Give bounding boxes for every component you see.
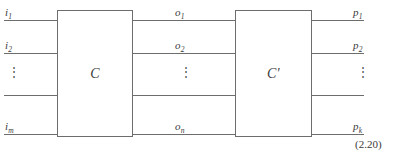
- output-label-p2: p2: [353, 40, 362, 51]
- middle-label-on-sub: n: [181, 126, 185, 135]
- wire-output-2-right: [312, 53, 364, 54]
- wire-output-1-right: [312, 20, 364, 21]
- wire-input-3-left: [4, 95, 57, 96]
- middle-label-o1-base: o: [175, 6, 181, 18]
- input-ellipsis: ⋮: [8, 66, 20, 78]
- input-label-i2: i2: [5, 40, 12, 51]
- output-label-p1-base: p: [353, 6, 359, 18]
- output-ellipsis: ⋮: [357, 66, 369, 78]
- gate-c: C: [57, 10, 133, 137]
- middle-label-o2-sub: 2: [181, 45, 185, 54]
- output-label-p2-base: p: [353, 39, 359, 51]
- wire-middle-3: [133, 95, 235, 96]
- gate-c-prime-label: C′: [267, 66, 280, 82]
- middle-label-o1-sub: 1: [181, 12, 185, 21]
- input-label-im-sub: m: [8, 126, 13, 135]
- middle-label-on-base: o: [175, 120, 181, 132]
- wire-output-3-right: [312, 95, 364, 96]
- circuit-composition-figure: C C′ i1 i2 ⋮ im o1 o2 ⋮ on p1 p2 ⋮ pk (2…: [0, 0, 407, 154]
- input-label-im: im: [5, 121, 13, 132]
- gate-c-label: C: [90, 66, 100, 82]
- input-label-i1-sub: 1: [8, 12, 12, 21]
- output-label-p2-sub: 2: [359, 45, 363, 54]
- output-label-pk-sub: k: [359, 126, 362, 135]
- middle-label-o1: o1: [175, 7, 184, 18]
- middle-label-o2-base: o: [175, 39, 181, 51]
- input-label-i1: i1: [5, 7, 12, 18]
- output-label-pk-base: p: [353, 120, 359, 132]
- equation-number: (2.20): [355, 138, 382, 150]
- output-label-p1: p1: [353, 7, 362, 18]
- middle-label-on: on: [175, 121, 184, 132]
- input-label-i2-sub: 2: [8, 45, 12, 54]
- middle-label-o2: o2: [175, 40, 184, 51]
- output-label-pk: pk: [353, 121, 362, 132]
- output-label-p1-sub: 1: [359, 12, 363, 21]
- gate-c-prime: C′: [235, 10, 312, 137]
- wire-output-4-right: [312, 134, 364, 135]
- middle-ellipsis: ⋮: [180, 66, 192, 78]
